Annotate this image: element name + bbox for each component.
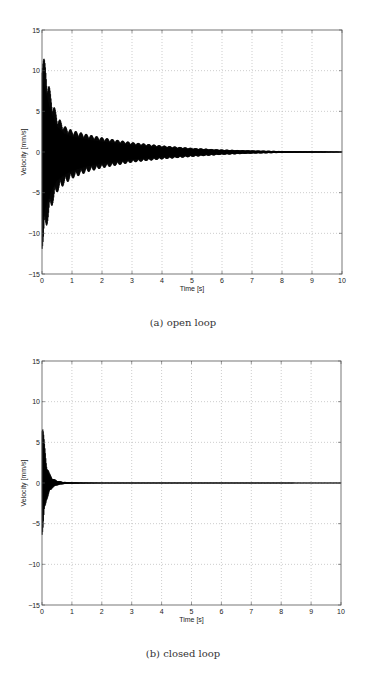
y-tick-label: 10 <box>32 398 40 405</box>
x-tick-label: 6 <box>220 277 224 284</box>
x-axis-label: Time [s] <box>179 616 204 624</box>
x-tick-label: 3 <box>130 608 134 615</box>
x-tick-label: 7 <box>250 277 254 284</box>
y-tick-label: 10 <box>32 67 40 74</box>
figure-closed-loop: 012345678910−15−10−5051015Time [s]Veloci… <box>0 331 366 671</box>
y-tick-label: −5 <box>32 520 40 527</box>
x-tick-label: 0 <box>40 277 44 284</box>
chart-closed-loop: 012345678910−15−10−5051015Time [s]Veloci… <box>0 331 366 641</box>
x-tick-label: 0 <box>40 608 44 615</box>
x-tick-label: 7 <box>249 608 253 615</box>
x-tick-label: 2 <box>100 608 104 615</box>
x-tick-label: 1 <box>70 277 74 284</box>
caption-closed-loop: (b) closed loop <box>0 648 366 659</box>
y-tick-label: 5 <box>36 439 40 446</box>
y-tick-label: 15 <box>32 27 40 34</box>
y-axis-label: Velocity [mm/s] <box>20 128 28 175</box>
x-tick-label: 4 <box>160 277 164 284</box>
caption-open-loop: (a) open loop <box>0 317 366 328</box>
y-tick-label: 15 <box>32 358 40 365</box>
chart-open-loop: 012345678910−15−10−5051015Time [s]Veloci… <box>0 0 366 310</box>
x-tick-label: 9 <box>310 277 314 284</box>
y-tick-label: −15 <box>28 602 40 609</box>
x-tick-label: 10 <box>337 608 345 615</box>
x-tick-label: 1 <box>70 608 74 615</box>
y-axis-label: Velocity [mm/s] <box>20 459 28 506</box>
y-tick-label: −10 <box>28 230 40 237</box>
x-tick-label: 10 <box>338 277 346 284</box>
x-tick-label: 4 <box>160 608 164 615</box>
signal-core <box>42 435 341 520</box>
y-tick-label: 0 <box>36 149 40 156</box>
x-tick-label: 8 <box>280 277 284 284</box>
figure-open-loop: 012345678910−15−10−5051015Time [s]Veloci… <box>0 0 366 340</box>
x-tick-label: 5 <box>190 277 194 284</box>
y-tick-label: 5 <box>36 108 40 115</box>
y-tick-label: −10 <box>28 561 40 568</box>
x-tick-label: 3 <box>130 277 134 284</box>
x-axis-label: Time [s] <box>180 285 205 293</box>
x-tick-label: 5 <box>190 608 194 615</box>
y-tick-label: −15 <box>28 271 40 278</box>
x-tick-label: 2 <box>100 277 104 284</box>
y-tick-label: −5 <box>32 189 40 196</box>
y-tick-label: 0 <box>36 480 40 487</box>
x-tick-label: 9 <box>309 608 313 615</box>
x-tick-label: 8 <box>279 608 283 615</box>
x-tick-label: 6 <box>219 608 223 615</box>
